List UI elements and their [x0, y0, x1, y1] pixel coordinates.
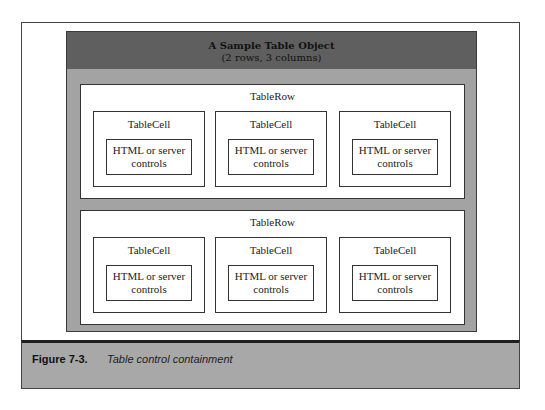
cell-content-box: HTML or server controls — [228, 265, 314, 301]
content-line: controls — [229, 157, 313, 170]
table-cell: TableCell HTML or server controls — [93, 111, 205, 187]
figure-caption-bar: Figure 7-3. Table control containment — [21, 340, 520, 389]
cell-label: TableCell — [340, 118, 450, 130]
content-line: HTML or server — [229, 144, 313, 157]
cell-content-box: HTML or server controls — [106, 265, 192, 301]
content-line: controls — [353, 283, 437, 296]
row-label: TableRow — [81, 216, 464, 228]
row-label: TableRow — [81, 90, 464, 102]
content-line: controls — [353, 157, 437, 170]
figure-number: Figure 7-3. — [32, 353, 88, 365]
content-line: controls — [107, 157, 191, 170]
figure-caption: Table control containment — [107, 353, 233, 365]
cell-content-box: HTML or server controls — [228, 139, 314, 175]
content-line: HTML or server — [353, 144, 437, 157]
table-cell: TableCell HTML or server controls — [215, 237, 327, 313]
cell-content-box: HTML or server controls — [352, 265, 438, 301]
table-row: TableRow TableCell HTML or server contro… — [80, 210, 465, 325]
cell-label: TableCell — [340, 244, 450, 256]
cell-label: TableCell — [216, 244, 326, 256]
cell-label: TableCell — [94, 244, 204, 256]
table-cell: TableCell HTML or server controls — [93, 237, 205, 313]
cell-content-box: HTML or server controls — [352, 139, 438, 175]
table-cell: TableCell HTML or server controls — [215, 111, 327, 187]
cell-content-box: HTML or server controls — [106, 139, 192, 175]
cell-label: TableCell — [94, 118, 204, 130]
content-line: HTML or server — [107, 144, 191, 157]
content-line: controls — [229, 283, 313, 296]
table-header: A Sample Table Object (2 rows, 3 columns… — [67, 32, 476, 69]
table-subtitle: (2 rows, 3 columns) — [67, 52, 476, 63]
table-object: A Sample Table Object (2 rows, 3 columns… — [66, 31, 477, 332]
table-cell: TableCell HTML or server controls — [339, 111, 451, 187]
content-line: HTML or server — [353, 270, 437, 283]
content-line: HTML or server — [107, 270, 191, 283]
table-row: TableRow TableCell HTML or server contro… — [80, 84, 465, 199]
table-title: A Sample Table Object — [67, 40, 476, 51]
content-line: controls — [107, 283, 191, 296]
table-cell: TableCell HTML or server controls — [339, 237, 451, 313]
content-line: HTML or server — [229, 270, 313, 283]
cell-label: TableCell — [216, 118, 326, 130]
